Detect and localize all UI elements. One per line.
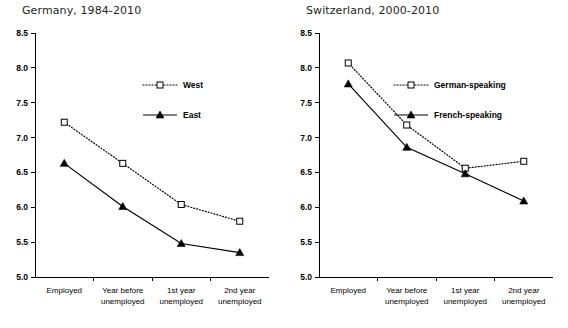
x-tick-label: unemployed: [502, 297, 546, 306]
y-tick-label: 7.0: [16, 133, 28, 143]
legend-item-german-speaking: German-speaking: [394, 80, 506, 90]
legend-item-west: West: [143, 80, 203, 90]
legend-label: East: [183, 110, 201, 120]
x-tick-label: Employed: [46, 286, 82, 295]
series-east: [60, 159, 244, 255]
data-point-marker: [120, 160, 126, 166]
y-tick-label: 8.0: [16, 63, 28, 73]
legend-label: French-speaking: [434, 110, 502, 120]
chart-title-germany: Germany, 1984-2010: [22, 4, 141, 17]
legend-marker: [408, 82, 414, 88]
y-tick-label: 5.0: [300, 272, 312, 282]
data-point-marker: [60, 159, 68, 166]
legend-label: West: [183, 80, 203, 90]
series-west: [61, 119, 243, 224]
data-point-marker: [521, 158, 527, 164]
data-point-marker: [345, 60, 351, 66]
y-tick-label: 5.5: [16, 237, 28, 247]
chart-svg-germany: 5.05.56.06.57.07.58.08.5EmployedYear bef…: [0, 0, 284, 328]
legend-label: German-speaking: [434, 80, 506, 90]
x-tick-label: 1st year: [451, 286, 480, 295]
two-panel-line-chart-figure: Germany, 1984-2010 5.05.56.06.57.07.58.0…: [0, 0, 568, 328]
legend-marker: [157, 82, 163, 88]
y-tick-label: 7.5: [16, 98, 28, 108]
legend-item-east: East: [143, 110, 201, 120]
series-line: [64, 122, 240, 221]
y-tick-label: 8.0: [300, 63, 312, 73]
x-tick-label: unemployed: [443, 297, 487, 306]
data-point-marker: [177, 240, 185, 247]
data-point-marker: [61, 119, 67, 125]
chart-panel-switzerland: Switzerland, 2000-2010 5.05.56.06.57.07.…: [284, 0, 568, 328]
x-tick-label: unemployed: [218, 297, 262, 306]
y-tick-label: 8.5: [16, 28, 28, 38]
x-tick-label: Year before: [102, 286, 144, 295]
data-point-marker: [237, 218, 243, 224]
y-tick-label: 7.5: [300, 98, 312, 108]
y-tick-label: 5.0: [16, 272, 28, 282]
y-tick-label: 6.0: [300, 202, 312, 212]
series-line: [64, 163, 240, 252]
x-tick-label: 2nd year: [508, 286, 539, 295]
chart-title-switzerland: Switzerland, 2000-2010: [306, 4, 439, 17]
data-point-marker: [178, 201, 184, 207]
y-tick-label: 6.0: [16, 202, 28, 212]
series-line: [348, 84, 524, 201]
x-tick-label: Year before: [386, 286, 428, 295]
x-tick-label: 2nd year: [224, 286, 255, 295]
x-tick-label: unemployed: [159, 297, 203, 306]
legend-item-french-speaking: French-speaking: [394, 110, 502, 120]
x-tick-label: Employed: [330, 286, 366, 295]
x-tick-label: unemployed: [101, 297, 145, 306]
data-point-marker: [119, 203, 127, 210]
series-french-speaking: [344, 80, 528, 204]
y-tick-label: 6.5: [300, 167, 312, 177]
y-tick-label: 5.5: [300, 237, 312, 247]
chart-svg-switzerland: 5.05.56.06.57.07.58.08.5EmployedYear bef…: [284, 0, 568, 328]
y-tick-label: 7.0: [300, 133, 312, 143]
chart-panel-germany: Germany, 1984-2010 5.05.56.06.57.07.58.0…: [0, 0, 284, 328]
x-tick-label: unemployed: [385, 297, 429, 306]
y-tick-label: 8.5: [300, 28, 312, 38]
x-tick-label: 1st year: [167, 286, 196, 295]
data-point-marker: [344, 80, 352, 87]
y-tick-label: 6.5: [16, 167, 28, 177]
data-point-marker: [404, 122, 410, 128]
data-point-marker: [520, 197, 528, 204]
